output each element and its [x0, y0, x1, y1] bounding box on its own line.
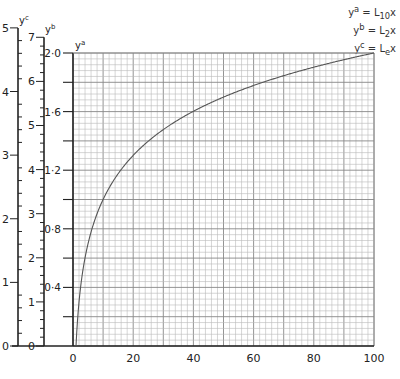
- yb-tick-label: 1: [28, 296, 35, 309]
- yc-tick-label: 5: [2, 22, 9, 35]
- yb-tick-label: 5: [28, 119, 35, 132]
- yc-tick-label: 2: [2, 213, 9, 226]
- yb-axis-label: yb: [45, 23, 56, 35]
- x-tick-label: 20: [126, 352, 140, 365]
- ya-tick-label: 2·0: [44, 47, 61, 59]
- yb-tick-label: 0: [28, 340, 35, 353]
- x-tick-label: 0: [70, 352, 77, 365]
- yc-tick-label: 1: [2, 276, 9, 289]
- yb-tick-label: 7: [28, 31, 35, 44]
- log-chart: 0·40·81·21·62·0ya01234567yb012345yc02040…: [0, 0, 400, 379]
- ya-axis-label: ya: [75, 39, 85, 51]
- yc-tick-label: 3: [2, 149, 9, 162]
- yc-axis-label: yc: [19, 14, 29, 26]
- yc-tick-label: 4: [2, 86, 9, 99]
- x-tick-label: 100: [364, 352, 385, 365]
- ya-tick-label: 0·8: [44, 223, 61, 235]
- yb-tick-label: 2: [28, 252, 35, 265]
- yb-tick-label: 3: [28, 208, 35, 221]
- x-tick-label: 60: [247, 352, 261, 365]
- ya-tick-label: 1·6: [44, 106, 61, 118]
- x-tick-label: 80: [307, 352, 321, 365]
- ya-tick-label: 0·4: [44, 281, 61, 293]
- yb-tick-label: 6: [28, 75, 35, 88]
- yb-tick-label: 4: [28, 164, 35, 177]
- yc-tick-label: 0: [2, 340, 9, 353]
- x-tick-label: 40: [186, 352, 200, 365]
- ya-tick-label: 1·2: [44, 164, 61, 176]
